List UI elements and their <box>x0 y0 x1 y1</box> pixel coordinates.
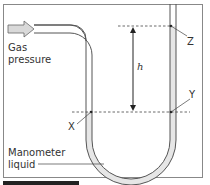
label-point-z: Z <box>187 36 194 47</box>
label-point-x: X <box>68 121 75 132</box>
label-pressure: pressure <box>8 54 51 65</box>
label-gas: Gas <box>8 42 27 53</box>
label-manometer: Manometer <box>8 147 66 158</box>
label-liquid: liquid <box>8 159 35 170</box>
label-height: h <box>137 61 143 72</box>
manometer-diagram: Gas pressure Manometer liquid h X Y Z <box>0 0 210 185</box>
label-point-y: Y <box>188 89 196 100</box>
footer-bar <box>3 181 79 185</box>
